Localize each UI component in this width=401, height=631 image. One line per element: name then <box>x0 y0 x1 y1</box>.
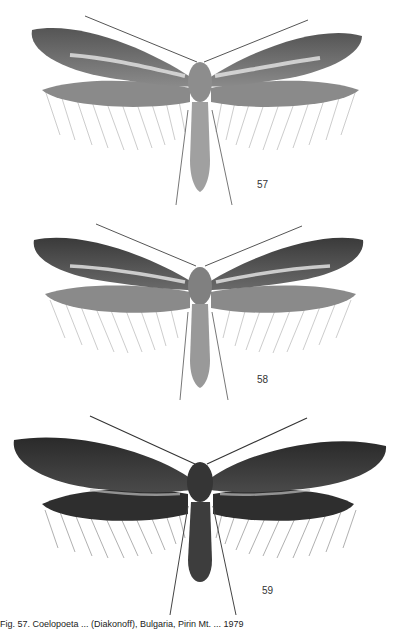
abdomen <box>188 502 212 582</box>
moth-illustration-57 <box>0 10 401 205</box>
forewing-right <box>211 441 386 492</box>
figure-59: 59 <box>0 410 401 615</box>
forewing-right <box>209 238 363 290</box>
figure-58: 58 <box>0 220 401 400</box>
hindwing-left <box>45 286 190 313</box>
abdomen <box>190 304 210 388</box>
forewing-left <box>34 238 192 290</box>
moth-illustration-58 <box>0 220 401 400</box>
figure-caption: Fig. 57. Coelopoeta ... (Diakonoff), Bul… <box>0 617 401 631</box>
figure-number-58: 58 <box>257 374 268 385</box>
forewing-left <box>14 437 190 492</box>
forewing-left <box>32 28 192 86</box>
figure-number-57: 57 <box>257 179 268 190</box>
thorax <box>188 267 212 305</box>
thorax <box>188 62 212 102</box>
figure-number-59: 59 <box>262 585 273 596</box>
moth-illustration-59 <box>0 410 401 615</box>
thorax <box>187 462 213 502</box>
figure-57: 57 <box>0 10 401 205</box>
hindwing-right <box>211 286 356 313</box>
abdomen <box>190 102 210 192</box>
forewing-right <box>209 33 362 87</box>
